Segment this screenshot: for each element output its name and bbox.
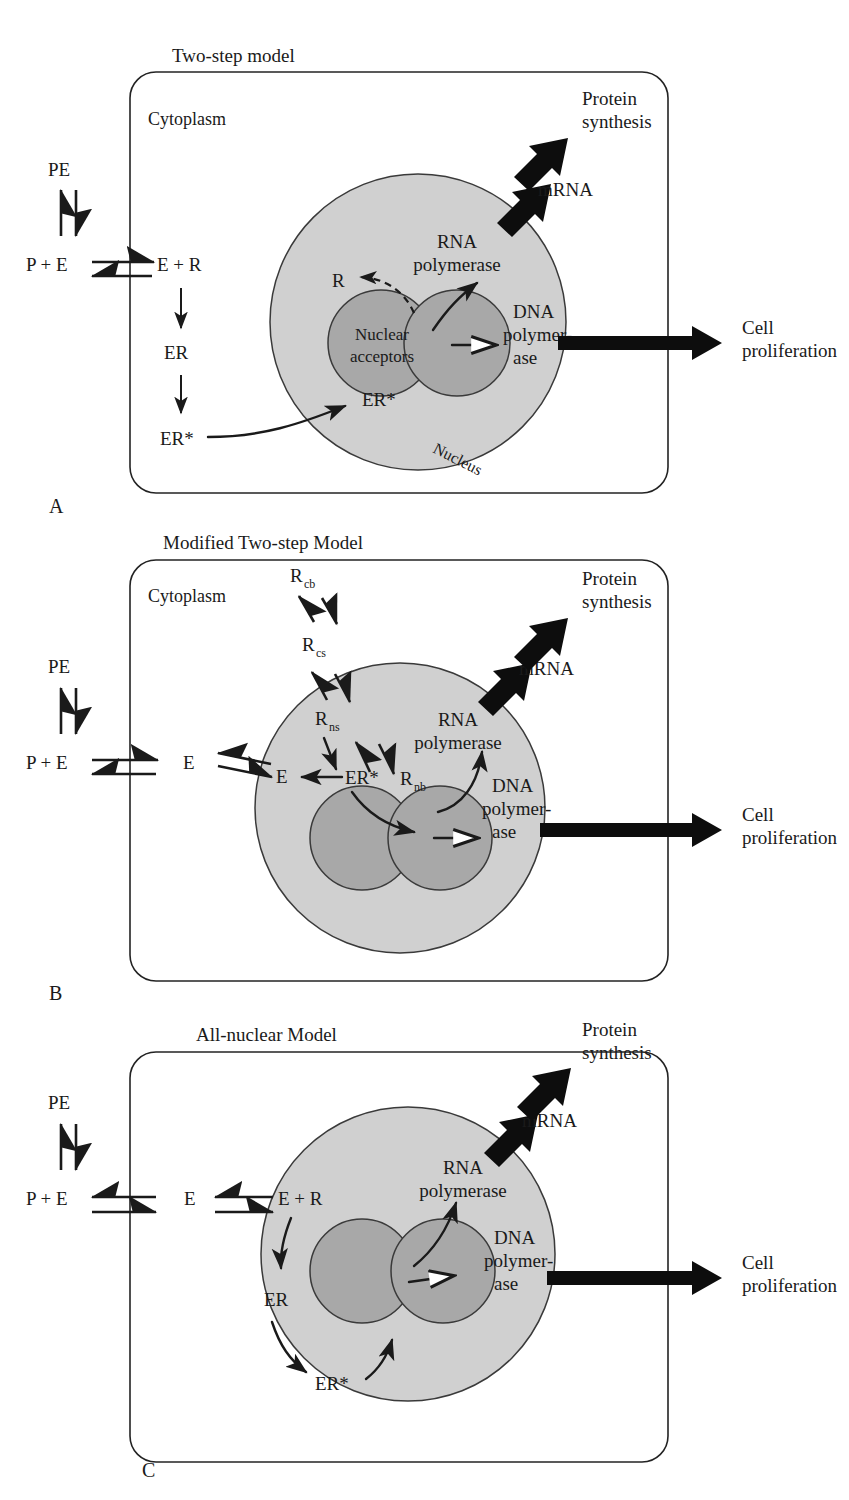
panel-a-output-protein-1: Protein bbox=[582, 88, 637, 109]
panel-b-arrow-cell-proliferation bbox=[540, 813, 722, 847]
panel-c-species-e-plus-r: E + R bbox=[278, 1188, 323, 1209]
panel-c: All-nuclear Model PE P + E E E + R ER ER… bbox=[26, 1019, 837, 1481]
panel-b-pool-rcb-sub: cb bbox=[304, 577, 315, 591]
panel-c-letter: C bbox=[142, 1459, 155, 1481]
panel-b-enzyme-rna-1: RNA bbox=[438, 709, 478, 730]
panel-c-enzyme-dna-1: DNA bbox=[494, 1227, 535, 1248]
panel-a-species-r: R bbox=[332, 270, 345, 291]
panel-c-species-pe: PE bbox=[48, 1092, 70, 1113]
panel-b-species-e-cytoplasm: E bbox=[183, 752, 195, 773]
figure-root: Two-step model Cytoplasm Nucleus Nuclear… bbox=[0, 0, 849, 1500]
panel-c-species-er: ER bbox=[264, 1289, 289, 1310]
panel-c-enzyme-dna-2: polymer- bbox=[484, 1250, 553, 1271]
panel-c-species-er-star: ER* bbox=[315, 1373, 349, 1394]
panel-b-species-pe: PE bbox=[48, 656, 70, 677]
panel-b-title: Modified Two-step Model bbox=[163, 532, 363, 553]
panel-c-output-protein-2: synthesis bbox=[582, 1042, 652, 1063]
panel-b-enzyme-rna-2: polymerase bbox=[414, 732, 502, 753]
panel-a-cytoplasm-label: Cytoplasm bbox=[148, 109, 226, 129]
panel-b-pool-rnb-sub: nb bbox=[414, 780, 426, 794]
panel-a-title: Two-step model bbox=[172, 45, 295, 66]
panel-b-enzyme-dna-2: polymer- bbox=[482, 798, 551, 819]
panel-b: Modified Two-step Model Cytoplasm R cb R… bbox=[26, 532, 837, 1004]
panel-a-acceptor-label-2: acceptors bbox=[350, 347, 414, 366]
panel-a-species-er-star-nuclear: ER* bbox=[362, 389, 396, 410]
panel-c-arrow-cell-proliferation bbox=[547, 1261, 722, 1295]
panel-a-species-er-star: ER* bbox=[160, 428, 194, 449]
panel-b-pool-rcs: R cs bbox=[302, 634, 326, 660]
panel-b-arrow-rcb-up bbox=[299, 596, 314, 622]
panel-c-title: All-nuclear Model bbox=[196, 1024, 337, 1045]
panel-b-arrow-rcb-down bbox=[322, 598, 337, 624]
panel-b-species-er-star: ER* bbox=[345, 767, 379, 788]
panel-b-pool-rnb-base: R bbox=[400, 768, 413, 789]
panel-a-enzyme-rna-2: polymerase bbox=[413, 254, 501, 275]
panel-b-pool-rns-base: R bbox=[315, 708, 328, 729]
panel-a-arrow-cell-proliferation bbox=[558, 326, 722, 360]
panel-c-output-cell-1: Cell bbox=[742, 1252, 774, 1273]
panel-b-pool-rcb: R cb bbox=[290, 565, 315, 591]
panel-b-output-protein-2: synthesis bbox=[582, 591, 652, 612]
panel-c-enzyme-dna-3: ase bbox=[494, 1273, 518, 1294]
panel-c-output-cell-2: proliferation bbox=[742, 1275, 837, 1296]
panel-b-pool-rns-sub: ns bbox=[329, 720, 340, 734]
estrogen-receptor-models-diagram: Two-step model Cytoplasm Nucleus Nuclear… bbox=[0, 0, 849, 1500]
panel-c-species-p-plus-e: P + E bbox=[26, 1188, 68, 1209]
panel-b-output-cell-2: proliferation bbox=[742, 827, 837, 848]
panel-c-output-protein-1: Protein bbox=[582, 1019, 637, 1040]
panel-a-acceptor-right bbox=[404, 290, 510, 396]
panel-a-species-er: ER bbox=[164, 342, 189, 363]
panel-b-pool-rcs-base: R bbox=[302, 634, 315, 655]
panel-a-output-cell-1: Cell bbox=[742, 317, 774, 338]
panel-b-output-cell-1: Cell bbox=[742, 804, 774, 825]
panel-a-output-protein-2: synthesis bbox=[582, 111, 652, 132]
panel-c-enzyme-rna-1: RNA bbox=[443, 1157, 483, 1178]
panel-b-enzyme-dna-1: DNA bbox=[492, 775, 533, 796]
panel-c-species-e-cytoplasm: E bbox=[184, 1188, 196, 1209]
panel-b-cytoplasm-label: Cytoplasm bbox=[148, 586, 226, 606]
panel-a-enzyme-dna-1: DNA bbox=[513, 301, 554, 322]
panel-a-letter: A bbox=[49, 495, 64, 517]
panel-b-pool-rcs-sub: cs bbox=[316, 646, 326, 660]
panel-a-output-mrna: mRNA bbox=[538, 179, 593, 200]
panel-c-enzyme-rna-2: polymerase bbox=[419, 1180, 507, 1201]
panel-a-acceptor-label-1: Nuclear bbox=[355, 325, 409, 344]
panel-b-species-e-nuclear: E bbox=[276, 766, 288, 787]
panel-b-species-p-plus-e: P + E bbox=[26, 752, 68, 773]
panel-a: Two-step model Cytoplasm Nucleus Nuclear… bbox=[26, 45, 837, 517]
panel-b-enzyme-dna-3: ase bbox=[492, 821, 516, 842]
panel-a-output-cell-2: proliferation bbox=[742, 340, 837, 361]
panel-a-enzyme-rna-1: RNA bbox=[437, 231, 477, 252]
panel-b-output-protein-1: Protein bbox=[582, 568, 637, 589]
panel-a-species-e-plus-r: E + R bbox=[157, 254, 202, 275]
panel-b-pool-rcb-base: R bbox=[290, 565, 303, 586]
panel-a-species-pe: PE bbox=[48, 159, 70, 180]
panel-b-letter: B bbox=[49, 982, 62, 1004]
panel-a-enzyme-dna-3: ase bbox=[513, 347, 537, 368]
panel-a-species-p-plus-e: P + E bbox=[26, 254, 68, 275]
